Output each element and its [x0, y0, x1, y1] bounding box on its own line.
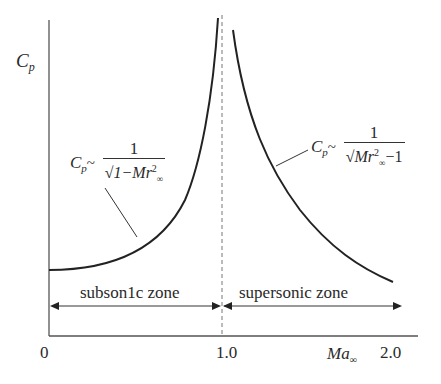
subsonic-zone-label: subson1c zone — [80, 283, 180, 303]
x-tick-2: 2.0 — [380, 343, 401, 363]
y-axis-label: Cp — [16, 50, 35, 75]
subsonic-formula: Cp~ 1 √1−Mr2∞ — [70, 140, 165, 189]
pressure-coefficient-diagram — [0, 0, 441, 384]
supersonic-zone-label: supersonic zone — [239, 283, 348, 303]
x-tick-0: 0 — [40, 343, 49, 363]
supersonic-leader-line — [276, 150, 308, 166]
x-tick-1: 1.0 — [216, 343, 237, 363]
arrowhead-left-icon — [223, 302, 232, 310]
subsonic-leader-line — [105, 188, 137, 237]
arrowhead-right-icon — [212, 302, 221, 310]
x-axis-label: Ma∞ — [327, 344, 357, 365]
arrowhead-right-icon — [393, 302, 402, 310]
supersonic-formula: Cp~ 1 √Mr2∞−1 — [311, 124, 405, 173]
arrowhead-left-icon — [50, 302, 59, 310]
